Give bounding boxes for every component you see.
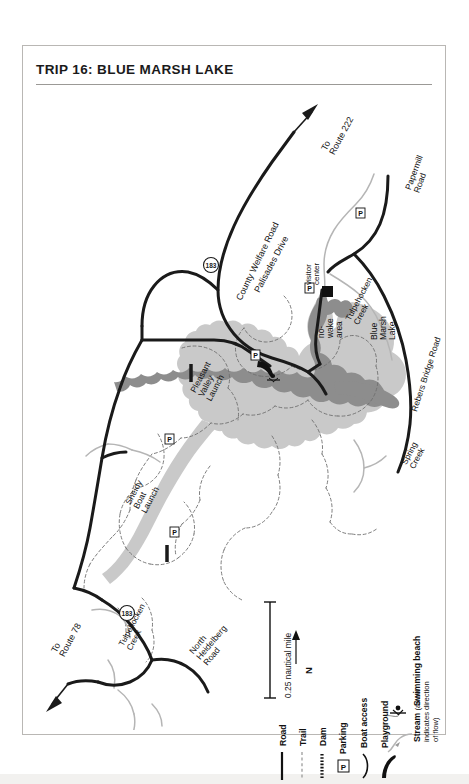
legend-label-road: Road — [278, 725, 288, 746]
svg-text:P: P — [167, 436, 172, 443]
svg-text:P: P — [341, 763, 347, 772]
road-north-heidelberg — [152, 659, 208, 692]
svg-text:P: P — [307, 285, 312, 292]
map-legend: P — [270, 610, 460, 784]
legend-label-playground: Playground — [380, 701, 390, 748]
arrow-to-route-222 — [294, 104, 318, 132]
road-rt183-west — [142, 272, 218, 326]
legend-label-boat-access: Boat access — [359, 698, 369, 748]
legend-label-dam: Dam — [318, 727, 328, 746]
svg-text:183: 183 — [206, 262, 217, 269]
visitor-center-marker — [322, 286, 333, 297]
page-title: TRIP 16: BLUE MARSH LAKE — [36, 62, 234, 77]
legend-stream-term: Stream — [412, 713, 422, 742]
legend-label-stream-note-3: of flow) — [431, 718, 440, 742]
route-shield-183-north: 183 — [204, 258, 219, 273]
label-blue-marsh-lake: Blue Marsh Lake — [370, 316, 397, 340]
legend-label-trail: Trail — [298, 728, 308, 746]
map-figure: 183 183 P P — [22, 90, 446, 730]
svg-text:P: P — [172, 529, 177, 536]
legend-stream-note-1: (arrow — [413, 689, 422, 711]
label-no-wake-area: no- wake area — [317, 318, 343, 338]
legend-label-stream-note-2: indicates direction — [422, 681, 431, 742]
title-divider — [36, 84, 432, 85]
legend-label-parking: Parking — [338, 722, 348, 754]
svg-text:P: P — [253, 352, 258, 359]
arrow-to-route-78 — [46, 684, 68, 712]
label-visitor-center: visitor center — [305, 263, 322, 285]
legend-label-stream: Stream (arrow — [412, 689, 422, 742]
svg-text:P: P — [358, 210, 363, 217]
